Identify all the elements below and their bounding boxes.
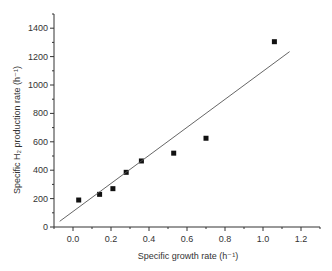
x-tick-label: 1.2 [295, 234, 308, 244]
data-point-square [76, 198, 81, 203]
x-tick-label: 0.8 [219, 234, 232, 244]
y-axis: 0200400600800100012001400 [28, 14, 54, 232]
y-tick-label: 0 [43, 222, 48, 232]
y-axis-label: Specific H₂ production rate (h⁻¹) [12, 66, 22, 194]
x-tick-label: 0.6 [181, 234, 194, 244]
fit-line [60, 52, 290, 222]
data-point-square [110, 186, 115, 191]
x-axis: 0.00.20.40.60.81.01.2 [54, 227, 320, 244]
data-point-square [204, 136, 209, 141]
x-tick-label: 1.0 [257, 234, 270, 244]
data-point-square [171, 151, 176, 156]
y-tick-label: 400 [33, 165, 48, 175]
y-tick-label: 200 [33, 194, 48, 204]
y-tick-label: 1000 [28, 80, 48, 90]
data-point-square [97, 192, 102, 197]
x-tick-label: 0.2 [105, 234, 118, 244]
y-tick-label: 1200 [28, 52, 48, 62]
y-tick-label: 600 [33, 137, 48, 147]
x-axis-label: Specific growth rate (h⁻¹) [138, 251, 239, 261]
y-tick-label: 1400 [28, 23, 48, 33]
x-tick-label: 0.4 [143, 234, 156, 244]
x-tick-label: 0.0 [67, 234, 80, 244]
y-tick-label: 800 [33, 108, 48, 118]
data-point-square [272, 39, 277, 44]
plot-area [60, 39, 290, 221]
scatter-chart: 0.00.20.40.60.81.01.2 020040060080010001… [0, 0, 332, 271]
